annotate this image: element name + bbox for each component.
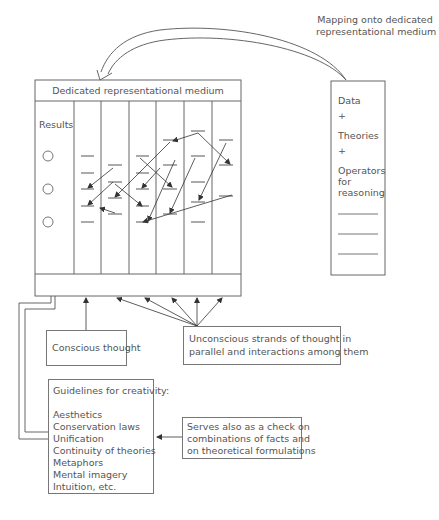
result-circle	[43, 217, 53, 227]
guideline-item: Aesthetics	[53, 409, 102, 421]
input-item-operators: Operators	[338, 165, 385, 176]
conscious-thought-label: Conscious thought	[52, 342, 140, 354]
input-item-plus: +	[338, 145, 385, 165]
input-item-theories: Theories	[338, 130, 385, 145]
unconscious-box: Unconscious strands of thought in parall…	[183, 326, 341, 365]
guideline-item: Conservation laws	[53, 421, 140, 433]
conscious-thought-box: Conscious thought	[46, 330, 127, 366]
input-item-data: Data	[338, 95, 385, 110]
serves-line2: combinations of facts and	[187, 433, 310, 445]
input-box-text: Data + Theories + Operators for reasonin…	[338, 95, 385, 198]
interaction-arrows	[88, 133, 232, 222]
result-circle	[43, 184, 53, 194]
guideline-item: Metaphors	[53, 457, 103, 469]
input-item-reasoning: reasoning	[338, 187, 385, 198]
guideline-item: Unification	[53, 433, 104, 445]
unconscious-line1: Unconscious strands of thought in	[189, 333, 351, 345]
serves-box: Serves also as a check on combinations o…	[182, 417, 302, 459]
unconscious-arrows	[117, 298, 222, 326]
mapping-label-line2: representational medium	[316, 26, 434, 38]
result-circle	[43, 151, 53, 161]
mapping-arrow	[97, 28, 346, 80]
serves-line3: on theoretical formulations	[187, 445, 316, 457]
guideline-item: Continuity of theories	[53, 445, 156, 457]
guideline-item: Intuition, etc.	[53, 481, 116, 493]
mapping-label-line1: Mapping onto dedicated	[316, 14, 434, 26]
input-item-plus: +	[338, 110, 385, 130]
result-circles	[43, 151, 53, 227]
results-label: Results	[39, 119, 73, 131]
guideline-item: Mental imagery	[53, 469, 127, 481]
main-box-title: Dedicated representational medium	[35, 85, 241, 97]
serves-line1: Serves also as a check on	[187, 421, 310, 433]
guidelines-box: Guidelines for creativity: Aesthetics Co…	[48, 379, 154, 494]
unconscious-line2: parallel and interactions among them	[189, 346, 368, 358]
input-item-for: for	[338, 176, 385, 187]
main-box	[35, 80, 241, 296]
mapping-label: Mapping onto dedicated representational …	[316, 14, 434, 38]
guidelines-title: Guidelines for creativity:	[53, 385, 169, 397]
